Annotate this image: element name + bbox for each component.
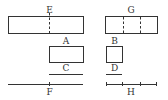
label-f: F — [46, 87, 52, 97]
diagram-canvas: E G A B C D F H — [0, 0, 168, 100]
label-a: A — [62, 36, 70, 46]
label-b: B — [111, 36, 118, 46]
segment-d: D — [106, 63, 122, 75]
label-c: C — [63, 63, 70, 73]
label-g: G — [127, 5, 134, 15]
segment-h: H — [106, 82, 157, 97]
rect-g: G — [106, 5, 158, 34]
rect-e: E — [9, 5, 84, 34]
label-e: E — [46, 5, 53, 15]
rect-b-outline — [107, 47, 123, 63]
rect-g-outline — [106, 17, 158, 34]
segment-f: F — [8, 82, 83, 97]
rect-e-outline — [9, 17, 84, 34]
rect-a: A — [50, 36, 84, 63]
rect-b: B — [107, 36, 123, 63]
label-d: D — [111, 63, 118, 73]
label-h: H — [127, 87, 135, 97]
rect-a-outline — [50, 47, 84, 63]
segment-c: C — [49, 63, 83, 75]
